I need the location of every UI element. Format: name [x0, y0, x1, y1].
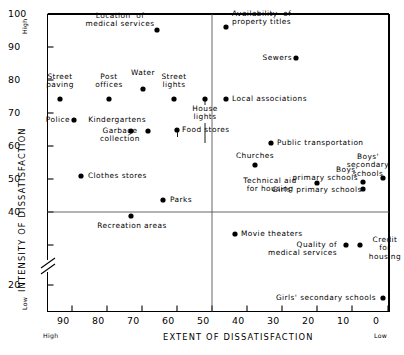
- x-tick-label-90: 90: [57, 315, 87, 326]
- x-tick-label-0: 0: [373, 315, 403, 326]
- x-tick-label-80: 80: [92, 315, 122, 326]
- point-label-recreation-areas: Recreation areas: [88, 222, 176, 230]
- point-label-kindergartens: Kindergartens: [80, 116, 146, 124]
- data-point: [380, 295, 385, 300]
- x-tick-label-70: 70: [127, 315, 157, 326]
- point-label-clothes-stores: Clothes stores: [88, 172, 168, 180]
- point-label-public-transportation: Public transportation: [277, 139, 397, 147]
- data-point: [160, 197, 165, 202]
- point-label-availability-property-titles: Availability of property titles: [232, 10, 342, 27]
- data-point: [357, 242, 362, 247]
- y-axis-high-endcap: High: [21, 19, 28, 34]
- y-tick-marks: [48, 14, 54, 285]
- data-point: [343, 242, 348, 247]
- x-tick-marks: [72, 306, 388, 312]
- data-point: [293, 55, 298, 60]
- x-tick-label-60: 60: [162, 315, 192, 326]
- data-point: [268, 140, 273, 145]
- point-label-girls-secondary-schools: Girls' secondary schools: [244, 294, 376, 302]
- point-label-house-lights: House lights: [182, 105, 228, 122]
- data-point: [140, 86, 145, 91]
- data-point: [128, 213, 133, 218]
- scatter-plot-figure: 100 90 80 70 60 50 40 20 90 80 70 60 50 …: [0, 0, 404, 355]
- data-point: [223, 24, 228, 29]
- data-points: [57, 24, 385, 300]
- point-label-sewers: Sewers: [232, 54, 292, 62]
- data-point: [360, 179, 365, 184]
- point-label-police: Police: [26, 116, 70, 124]
- y-tick-label-90: 90: [8, 41, 44, 52]
- point-label-street-lights: Street lights: [150, 73, 198, 90]
- x-axis-low-endcap: Low: [374, 332, 387, 339]
- y-tick-label-100: 100: [8, 8, 44, 19]
- data-point: [171, 96, 176, 101]
- point-label-credit-for-housing: Credit for housing: [365, 236, 404, 261]
- point-label-location-medical-services: Location of medical services: [72, 12, 168, 29]
- y-axis-title: INTENSITY OF DISSATISFACTION: [17, 127, 27, 292]
- data-point: [252, 162, 257, 167]
- x-tick-label-50: 50: [197, 315, 227, 326]
- data-point: [223, 96, 228, 101]
- point-label-garbage-collection: Garbage collection: [93, 127, 147, 144]
- point-label-churches: Churches: [228, 152, 282, 160]
- data-point: [57, 96, 62, 101]
- data-point: [106, 96, 111, 101]
- point-label-parks: Parks: [170, 196, 210, 204]
- x-axis-high-endcap: High: [43, 332, 58, 339]
- x-tick-label-40: 40: [232, 315, 262, 326]
- reference-lines: [48, 14, 390, 312]
- point-label-movie-theaters: Movie theaters: [241, 230, 321, 238]
- y-axis-low-endcap: Low: [21, 297, 28, 310]
- point-label-food-stores: Food stores: [182, 126, 246, 134]
- point-label-street-paving: Street paving: [34, 73, 86, 90]
- x-tick-label-20: 20: [302, 315, 332, 326]
- point-label-quality-medical-services: Quality of medical services: [237, 241, 337, 258]
- x-tick-label-30: 30: [267, 315, 297, 326]
- point-label-technical-aid-housing: Technical aid for housing: [239, 177, 301, 194]
- axis-lines: [48, 14, 390, 312]
- point-label-local-associations: Local associations: [232, 95, 332, 103]
- data-point: [71, 117, 76, 122]
- data-point: [232, 231, 237, 236]
- data-point: [202, 96, 207, 101]
- data-point: [78, 173, 83, 178]
- y-axis-break-mark: [41, 258, 55, 274]
- x-axis-title: EXTENT OF DISSATISFACTION: [163, 332, 314, 342]
- data-point: [174, 127, 179, 132]
- x-tick-label-10: 10: [337, 315, 367, 326]
